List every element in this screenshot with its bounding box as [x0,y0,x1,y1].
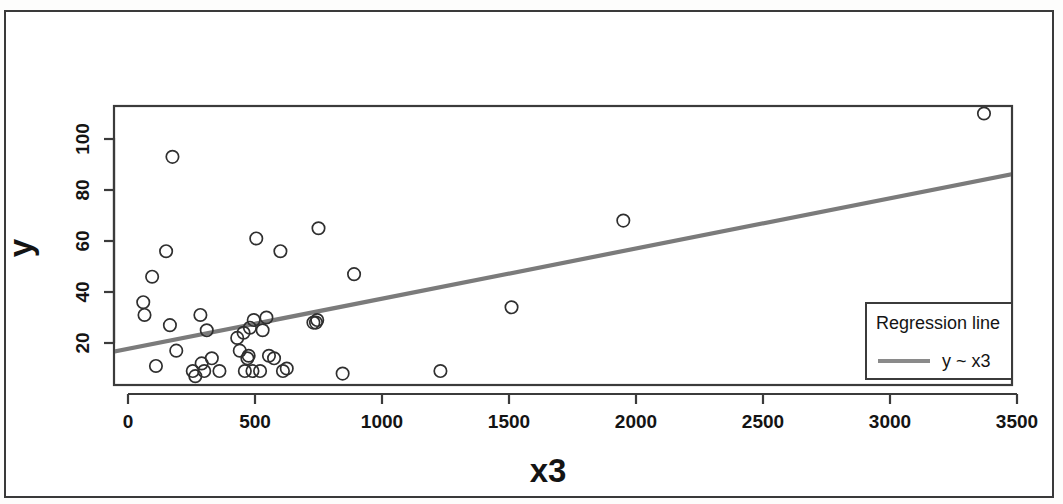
data-point [312,222,324,234]
data-point [194,309,206,321]
data-point [160,245,172,257]
y-tick-group: 20406080100 [72,123,115,353]
data-point [348,268,360,280]
data-point [274,245,286,257]
data-point [170,344,182,356]
legend-title: Regression line [876,313,1000,333]
y-tick-label-20: 20 [72,332,93,353]
x-tick-label-1500: 1500 [488,411,530,432]
data-point [137,296,149,308]
data-point [617,214,629,226]
data-point [256,324,268,336]
y-tick-label-40: 40 [72,281,93,302]
data-point [281,362,293,374]
plot-svg: 20406080100 0500100015002000250030003500… [0,0,1063,504]
legend: Regression line y ~ x3 [866,303,1012,379]
x-tick-label-3000: 3000 [869,411,911,432]
data-point [978,107,990,119]
data-point [434,365,446,377]
x-tick-label-0: 0 [123,411,134,432]
x-tick-label-2000: 2000 [615,411,657,432]
y-axis: 20406080100 [72,123,115,353]
y-tick-label-60: 60 [72,230,93,251]
x-tick-group: 0500100015002000250030003500 [123,394,1038,432]
x-tick-label-500: 500 [239,411,271,432]
y-tick-label-80: 80 [72,179,93,200]
data-point [150,360,162,372]
legend-entry-label: y ~ x3 [942,351,991,371]
data-point [146,271,158,283]
data-point [505,301,517,313]
data-point [250,232,262,244]
data-point [164,319,176,331]
x-tick-label-3500: 3500 [996,411,1038,432]
data-point [166,151,178,163]
data-point [138,309,150,321]
figure-page: 20406080100 0500100015002000250030003500… [0,0,1063,504]
y-axis-title: y [2,238,39,257]
y-tick-label-100: 100 [72,123,93,155]
data-point [254,365,266,377]
x-axis-title: x3 [530,452,567,489]
x-axis: 0500100015002000250030003500 [123,394,1038,432]
scatter-plot-figure: 20406080100 0500100015002000250030003500… [0,0,1063,504]
data-point [213,365,225,377]
data-point [206,352,218,364]
x-tick-label-2500: 2500 [742,411,784,432]
data-point-group [137,107,990,382]
x-tick-label-1000: 1000 [361,411,403,432]
data-point [336,367,348,379]
